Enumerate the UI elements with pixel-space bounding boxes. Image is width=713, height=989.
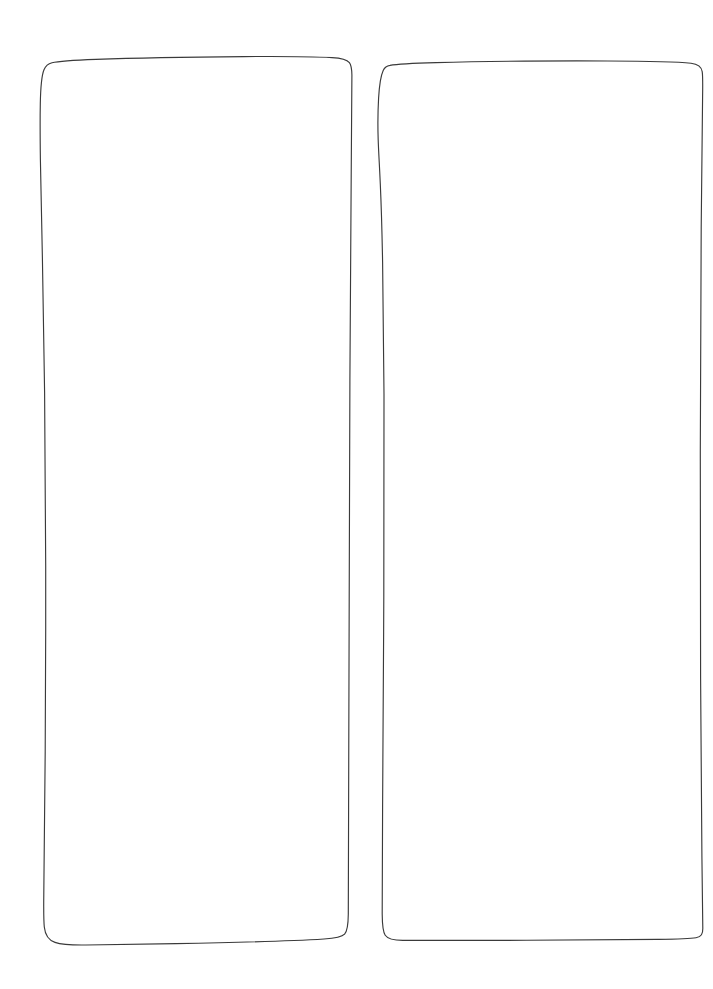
panel-right[interactable] [377,63,703,941]
sketch-canvas [0,0,713,989]
panel-right-content [377,63,703,941]
panel-left-content [40,60,352,946]
panel-left[interactable] [40,60,352,946]
